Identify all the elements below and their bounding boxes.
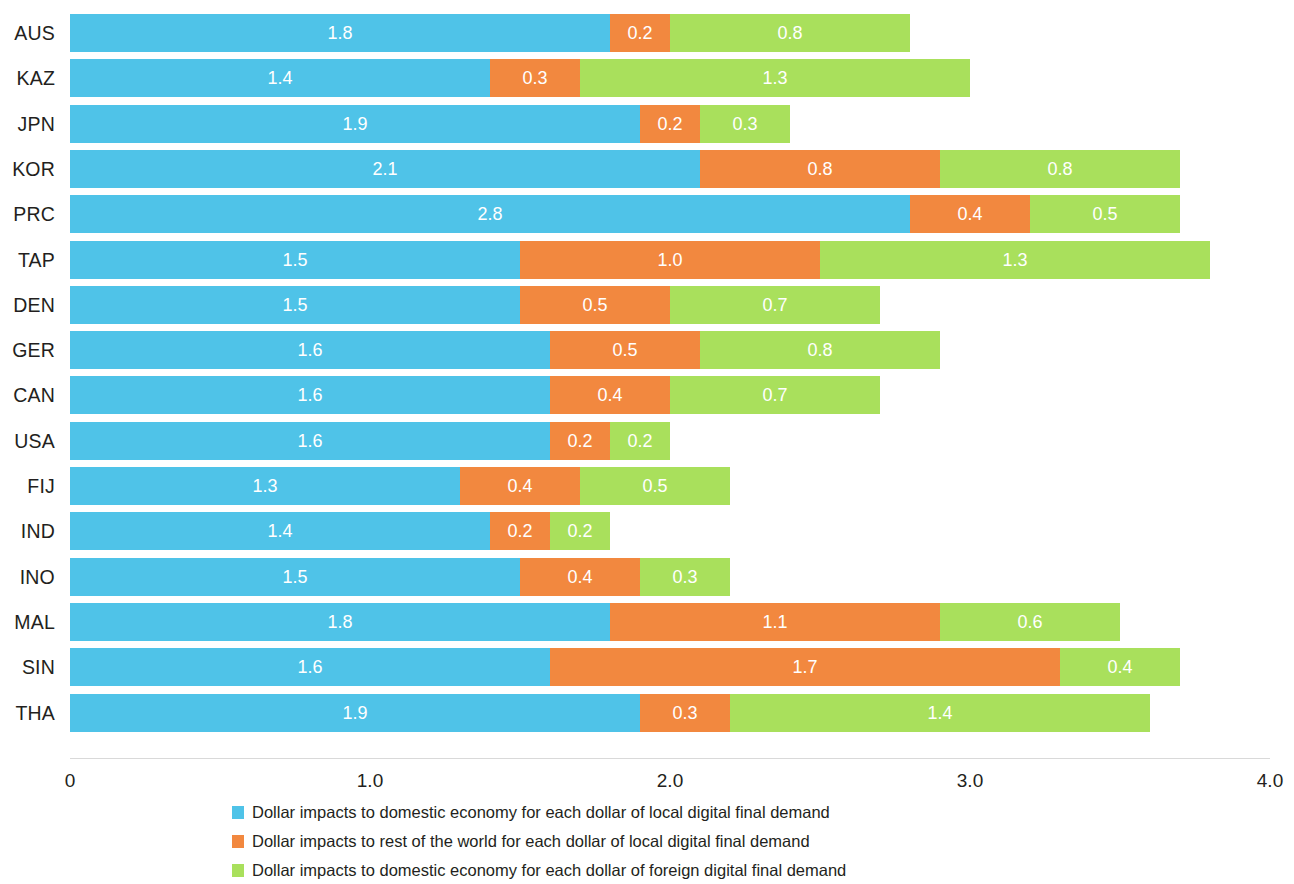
bar-segment-series-3: 0.8 <box>670 14 910 52</box>
bar-value-label: 0.2 <box>627 432 652 450</box>
bar-value-label: 1.5 <box>282 296 307 314</box>
stacked-bar: 1.50.50.7 <box>70 286 880 324</box>
bar-row: PRC2.80.40.5 <box>0 195 1294 233</box>
x-axis-tick-label: 4.0 <box>1257 770 1283 792</box>
category-label-prc: PRC <box>0 195 55 233</box>
category-label-tap: TAP <box>0 241 55 279</box>
bar-segment-series-1: 1.5 <box>70 558 520 596</box>
bar-value-label: 0.3 <box>732 115 757 133</box>
category-label-aus: AUS <box>0 14 55 52</box>
bar-row: CAN1.60.40.7 <box>0 376 1294 414</box>
bar-segment-series-1: 1.6 <box>70 648 550 686</box>
category-label-sin: SIN <box>0 648 55 686</box>
stacked-bar: 1.90.31.4 <box>70 694 1150 732</box>
bar-row: GER1.60.50.8 <box>0 331 1294 369</box>
x-axis-tick-label: 2.0 <box>657 770 683 792</box>
bar-value-label: 0.8 <box>1047 160 1072 178</box>
bar-value-label: 2.1 <box>372 160 397 178</box>
category-label-ino: INO <box>0 558 55 596</box>
bar-segment-series-1: 1.6 <box>70 331 550 369</box>
stacked-bar: 1.81.10.6 <box>70 603 1120 641</box>
bar-segment-series-2: 0.3 <box>640 694 730 732</box>
bar-value-label: 1.1 <box>762 613 787 631</box>
bar-value-label: 1.7 <box>792 658 817 676</box>
bar-segment-series-3: 0.8 <box>940 150 1180 188</box>
bar-segment-series-3: 0.5 <box>1030 195 1180 233</box>
category-label-den: DEN <box>0 286 55 324</box>
bar-segment-series-2: 0.8 <box>700 150 940 188</box>
bar-value-label: 1.3 <box>252 477 277 495</box>
bar-value-label: 1.8 <box>327 613 352 631</box>
bar-segment-series-3: 0.7 <box>670 286 880 324</box>
bar-value-label: 0.4 <box>567 568 592 586</box>
category-label-usa: USA <box>0 422 55 460</box>
x-axis-tick-label: 3.0 <box>957 770 983 792</box>
bar-segment-series-1: 1.4 <box>70 512 490 550</box>
legend-item[interactable]: Dollar impacts to domestic economy for e… <box>232 856 1132 884</box>
stacked-bar: 1.51.01.3 <box>70 241 1210 279</box>
legend-item[interactable]: Dollar impacts to domestic economy for e… <box>232 798 1132 827</box>
bar-row: FIJ1.30.40.5 <box>0 467 1294 505</box>
bar-segment-series-3: 1.4 <box>730 694 1150 732</box>
bar-row: IND1.40.20.2 <box>0 512 1294 550</box>
bar-value-label: 0.8 <box>807 160 832 178</box>
x-axis-tick-label: 0 <box>65 770 76 792</box>
bar-segment-series-2: 0.4 <box>520 558 640 596</box>
bar-row: USA1.60.20.2 <box>0 422 1294 460</box>
bar-value-label: 0.6 <box>1017 613 1042 631</box>
bar-segment-series-3: 1.3 <box>820 241 1210 279</box>
bar-row: INO1.50.40.3 <box>0 558 1294 596</box>
bar-value-label: 1.6 <box>297 341 322 359</box>
bar-row: TAP1.51.01.3 <box>0 241 1294 279</box>
stacked-bar: 1.61.70.4 <box>70 648 1180 686</box>
category-label-ind: IND <box>0 512 55 550</box>
bar-value-label: 1.9 <box>342 115 367 133</box>
stacked-bar: 1.50.40.3 <box>70 558 730 596</box>
bar-value-label: 1.6 <box>297 386 322 404</box>
bar-value-label: 0.8 <box>807 341 832 359</box>
bar-value-label: 0.4 <box>1107 658 1132 676</box>
legend-label: Dollar impacts to rest of the world for … <box>252 833 810 850</box>
stacked-bar: 1.40.20.2 <box>70 512 610 550</box>
bar-segment-series-2: 0.4 <box>460 467 580 505</box>
plot-area: AUS1.80.20.8KAZ1.40.31.3JPN1.90.20.3KOR2… <box>0 0 1294 762</box>
bar-value-label: 1.6 <box>297 432 322 450</box>
bar-value-label: 1.3 <box>762 69 787 87</box>
stacked-bar: 1.80.20.8 <box>70 14 910 52</box>
bar-value-label: 1.6 <box>297 658 322 676</box>
category-label-kaz: KAZ <box>0 59 55 97</box>
bar-segment-series-2: 0.2 <box>610 14 670 52</box>
bar-segment-series-3: 0.8 <box>700 331 940 369</box>
bar-segment-series-1: 1.4 <box>70 59 490 97</box>
stacked-bar: 1.30.40.5 <box>70 467 730 505</box>
legend-label: Dollar impacts to domestic economy for e… <box>252 804 830 821</box>
legend-label: Dollar impacts to domestic economy for e… <box>252 862 846 879</box>
bar-segment-series-1: 1.5 <box>70 241 520 279</box>
bar-value-label: 0.2 <box>627 24 652 42</box>
stacked-bar: 1.90.20.3 <box>70 105 790 143</box>
legend-item[interactable]: Dollar impacts to rest of the world for … <box>232 827 1132 856</box>
bar-value-label: 0.2 <box>567 522 592 540</box>
bar-segment-series-2: 0.5 <box>520 286 670 324</box>
bar-segment-series-2: 0.2 <box>550 422 610 460</box>
bar-value-label: 0.5 <box>642 477 667 495</box>
bar-row: THA1.90.31.4 <box>0 694 1294 732</box>
x-axis: 01.02.03.04.0 <box>0 758 1294 802</box>
bar-segment-series-3: 0.3 <box>700 105 790 143</box>
category-label-fij: FIJ <box>0 467 55 505</box>
bar-value-label: 0.3 <box>672 704 697 722</box>
bar-segment-series-2: 0.4 <box>910 195 1030 233</box>
legend-swatch-icon <box>232 835 244 848</box>
bar-row: AUS1.80.20.8 <box>0 14 1294 52</box>
axis-line <box>70 758 1270 759</box>
bar-value-label: 0.3 <box>522 69 547 87</box>
category-label-tha: THA <box>0 694 55 732</box>
bar-row: DEN1.50.50.7 <box>0 286 1294 324</box>
bar-segment-series-1: 1.5 <box>70 286 520 324</box>
bar-row: MAL1.81.10.6 <box>0 603 1294 641</box>
bar-segment-series-1: 1.9 <box>70 694 640 732</box>
stacked-bar: 1.40.31.3 <box>70 59 970 97</box>
bar-value-label: 0.2 <box>507 522 532 540</box>
bar-value-label: 0.2 <box>567 432 592 450</box>
bar-value-label: 0.7 <box>762 386 787 404</box>
